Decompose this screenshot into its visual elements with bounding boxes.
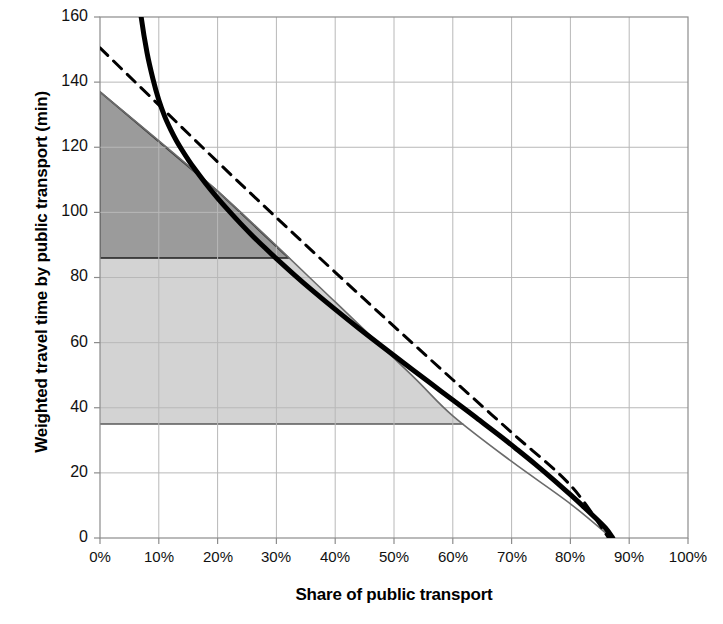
gridlines	[100, 17, 688, 538]
plot-area	[0, 0, 723, 624]
shaded-regions	[100, 92, 463, 424]
chart-figure: Weighted travel time by public transport…	[0, 0, 723, 624]
